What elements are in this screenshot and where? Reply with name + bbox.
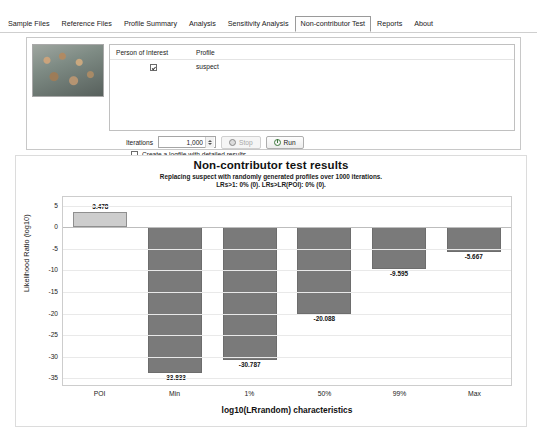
x-tick-label: 1% — [212, 390, 287, 397]
bar-1pct — [223, 227, 277, 360]
x-axis-label: log10(LRrandom) characteristics — [62, 405, 512, 415]
poi-checkbox[interactable] — [150, 64, 157, 71]
gridline — [63, 292, 511, 293]
y-axis-ticks: 50-5-10-15-20-25-30-35 — [34, 196, 60, 386]
x-tick-label: Min — [137, 390, 212, 397]
iterations-stepper[interactable] — [158, 136, 216, 148]
run-controls: Iterations Stop Run — [109, 135, 515, 149]
tab-sample-files[interactable]: Sample Files — [2, 16, 56, 32]
run-button[interactable]: Run — [266, 136, 304, 149]
application-window: Sample Files Reference Files Profile Sum… — [0, 0, 537, 434]
bar-poi — [73, 212, 127, 227]
non-contributor-settings-panel: Person of Interest Profile suspect Itera… — [26, 37, 521, 150]
power-icon — [274, 139, 281, 146]
column-header-person-of-interest: Person of Interest — [110, 49, 196, 56]
stop-button-label: Stop — [239, 139, 253, 146]
chevron-down-icon[interactable] — [208, 143, 212, 145]
chart-title: Non-contributor test results — [16, 159, 526, 171]
tab-profile-summary[interactable]: Profile Summary — [118, 16, 183, 32]
tab-about[interactable]: About — [408, 16, 439, 32]
gridline — [63, 335, 511, 336]
table-row[interactable]: suspect — [110, 60, 514, 74]
sample-thumbnail-image — [32, 44, 104, 97]
iterations-label: Iterations — [109, 139, 153, 146]
y-tick-label: 5 — [54, 201, 58, 208]
chart-subtitle: Replacing suspect with randomly generate… — [16, 173, 526, 180]
gridline — [63, 270, 511, 271]
y-axis-label: Likelihood Ratio (log10) — [22, 214, 31, 292]
chart-panel: Non-contributor test results Replacing s… — [15, 155, 527, 427]
bar-value-label: 3.478 — [92, 203, 108, 210]
column-header-profile: Profile — [196, 49, 316, 56]
tab-analysis[interactable]: Analysis — [183, 16, 222, 32]
y-tick-label: -5 — [52, 244, 58, 251]
stop-button[interactable]: Stop — [221, 136, 261, 149]
bar-value-label: -30.787 — [239, 361, 261, 368]
bar-value-label: -5.667 — [465, 253, 483, 260]
chevron-up-icon[interactable] — [208, 140, 212, 142]
stepper-arrows[interactable] — [205, 137, 214, 148]
person-of-interest-grid[interactable]: Person of Interest Profile suspect — [109, 44, 515, 131]
gridline — [63, 357, 511, 358]
tab-sensitivity-analysis[interactable]: Sensitivity Analysis — [222, 16, 295, 32]
zero-line — [63, 227, 511, 228]
row-profile-name: suspect — [196, 63, 316, 70]
tab-non-contributor-test[interactable]: Non-contributor Test — [295, 16, 372, 32]
x-tick-label: 50% — [287, 390, 362, 397]
y-tick-label: -20 — [48, 309, 58, 316]
plot-canvas: 3.478-33.833-30.787-20.088-9.595-5.667 — [62, 196, 512, 386]
tab-reference-files[interactable]: Reference Files — [56, 16, 118, 32]
y-tick-label: -15 — [48, 288, 58, 295]
gridline — [63, 378, 511, 379]
x-tick-label: Max — [437, 390, 512, 397]
iterations-input[interactable] — [159, 137, 205, 147]
gridline — [63, 249, 511, 250]
grid-header-row: Person of Interest Profile — [110, 45, 514, 60]
y-tick-label: -35 — [48, 374, 58, 381]
bar-value-label: -20.088 — [314, 315, 336, 322]
x-tick-label: 99% — [362, 390, 437, 397]
tab-bar: Sample Files Reference Files Profile Sum… — [0, 18, 537, 33]
tab-reports[interactable]: Reports — [371, 16, 408, 32]
y-tick-label: -30 — [48, 352, 58, 359]
stop-icon — [229, 139, 236, 146]
gridline — [63, 206, 511, 207]
row-checkbox-cell[interactable] — [110, 63, 196, 71]
chart-subtitle-stats: LRs>1: 0% (0). LRs>LR(POI): 0% (0). — [16, 181, 526, 188]
y-tick-label: -25 — [48, 331, 58, 338]
y-tick-label: 0 — [54, 223, 58, 230]
gridline — [63, 314, 511, 315]
x-axis-ticks: POIMin1%50%99%Max — [62, 390, 512, 397]
y-tick-label: -10 — [48, 266, 58, 273]
x-tick-label: POI — [62, 390, 137, 397]
run-button-label: Run — [284, 139, 296, 146]
plot-area: Likelihood Ratio (log10) 50-5-10-15-20-2… — [16, 196, 528, 428]
